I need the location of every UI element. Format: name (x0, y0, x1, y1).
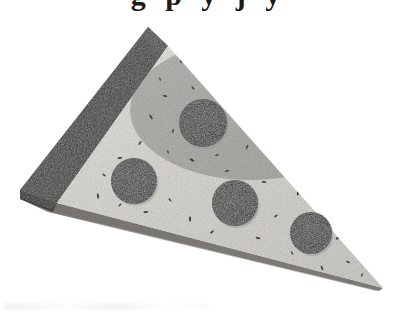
image-canvas: g p y j y (0, 0, 417, 321)
pizza-slice-photo (0, 0, 417, 321)
cheese-speckle (245, 78, 249, 81)
cheese-speckle (180, 59, 182, 64)
cheese-speckle (198, 70, 202, 74)
pepperoni-disc (111, 158, 157, 204)
cheese-speckle (256, 107, 260, 110)
cheese-surface (57, 40, 383, 300)
cheese-speckle (318, 203, 321, 208)
pepperoni-disc (212, 180, 258, 226)
pepperoni-disc (179, 99, 227, 147)
cheese-speckle (237, 118, 242, 122)
cheese-speckle (266, 129, 270, 135)
pepperoni-disc (290, 212, 332, 254)
cheese-speckle (231, 90, 234, 96)
cheese-speckle (219, 67, 225, 70)
cheese-speckle (284, 164, 288, 168)
